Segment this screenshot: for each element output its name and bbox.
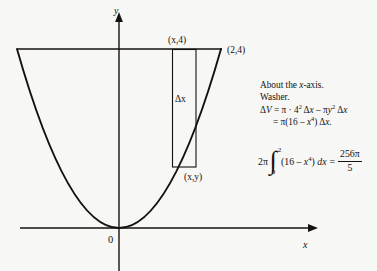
note-line-simplified: = π(16 – x4) Δx. bbox=[260, 116, 377, 128]
point-label-x4: (x,4) bbox=[168, 35, 186, 46]
note-line-delta-v: ΔV = π · 42 Δx – πy2 Δx bbox=[260, 104, 377, 116]
note-line-axis: About the x-axis. bbox=[260, 79, 377, 91]
integral-expression: 2π ∫ 2 0 (16 – x4) dx = 256π 5 bbox=[258, 148, 362, 174]
integral-lower-limit: 0 bbox=[272, 168, 276, 176]
note-line-washer: Washer. bbox=[260, 91, 377, 103]
point-label-2-4: (2,4) bbox=[227, 45, 245, 56]
integral-upper-limit: 2 bbox=[278, 146, 282, 154]
integral-equals-sign: = bbox=[330, 156, 336, 167]
representative-strip-rect bbox=[173, 50, 197, 168]
integrand-expression: (16 – x4) dx bbox=[281, 156, 327, 167]
integral-coefficient: 2π bbox=[258, 156, 268, 167]
y-axis-label: y bbox=[113, 5, 119, 16]
coordinate-plot: y x 0 (x,4) (2,4) (x,y) Δx bbox=[0, 0, 377, 271]
integral-sign-group: ∫ 2 0 bbox=[270, 148, 277, 174]
point-label-xy: (x,y) bbox=[184, 172, 202, 183]
explanation-text-panel: About the x-axis. Washer. ΔV = π · 42 Δx… bbox=[260, 79, 377, 129]
x-axis-arrowhead bbox=[308, 224, 318, 232]
washer-method-figure: y x 0 (x,4) (2,4) (x,y) Δx About the x-a… bbox=[0, 0, 377, 271]
origin-label: 0 bbox=[108, 234, 113, 245]
x-axis-label: x bbox=[302, 239, 308, 250]
note-axis-pre: About the bbox=[260, 80, 299, 90]
integral-result-fraction: 256π 5 bbox=[338, 149, 362, 173]
note-axis-post: -axis. bbox=[303, 80, 323, 90]
result-numerator: 256π bbox=[338, 149, 362, 159]
result-denominator: 5 bbox=[345, 163, 354, 173]
delta-x-label: Δx bbox=[175, 94, 186, 104]
